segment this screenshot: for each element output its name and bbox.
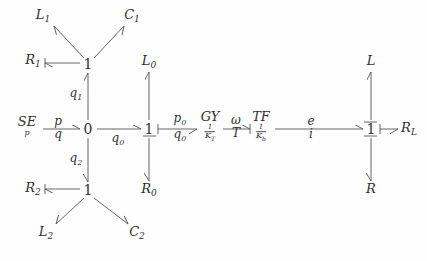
bond-graph-diagram: 1 0 1 1 1 SE p GY 1KT TF 1Kb L1 C1 R1 L2… <box>0 0 427 261</box>
port-label-r2: R2 <box>25 181 41 198</box>
junction-right-one: 1 <box>367 121 376 137</box>
port-label-c1: C1 <box>124 8 140 25</box>
port-label-rl: RL <box>401 121 417 138</box>
bond-label-tf-right: e i <box>307 115 314 141</box>
element-gyrator: GY 1KT <box>201 110 220 142</box>
port-label-l: L <box>367 54 376 71</box>
port-label-r0: R0 <box>141 182 157 199</box>
bond-bottom1-to-l2 <box>56 198 84 224</box>
element-source-effort: SE p <box>18 115 36 137</box>
bond-bottom1-to-c2 <box>94 198 128 224</box>
bond-label-zero-mid: q0 <box>112 132 125 148</box>
port-label-r: R <box>366 182 376 199</box>
port-label-c2: C2 <box>129 225 145 242</box>
gyrator-modulus: 1KT <box>201 124 220 142</box>
transformer-modulus: 1Kb <box>252 124 270 142</box>
bond-label-se-zero: p q <box>54 115 62 141</box>
junction-zero: 0 <box>84 121 93 137</box>
junction-mid-one: 1 <box>145 121 154 137</box>
port-label-l1: L1 <box>36 8 50 25</box>
bond-label-gy-tf: ω T <box>231 114 241 140</box>
port-label-l2: L2 <box>39 225 53 242</box>
bond-top1-to-l1 <box>54 26 84 58</box>
junction-bottom-one: 1 <box>84 182 93 198</box>
bond-top1-to-c1 <box>94 26 124 58</box>
bond-label-mid-gy: p0 q0 <box>174 112 187 144</box>
element-transformer: TF 1Kb <box>252 110 270 142</box>
bond-label-q1: q1 <box>70 87 83 103</box>
bond-label-q2: q2 <box>70 152 83 168</box>
junction-top-one: 1 <box>84 56 93 72</box>
port-label-r1: R1 <box>25 53 41 70</box>
port-label-l0: L0 <box>142 54 156 71</box>
